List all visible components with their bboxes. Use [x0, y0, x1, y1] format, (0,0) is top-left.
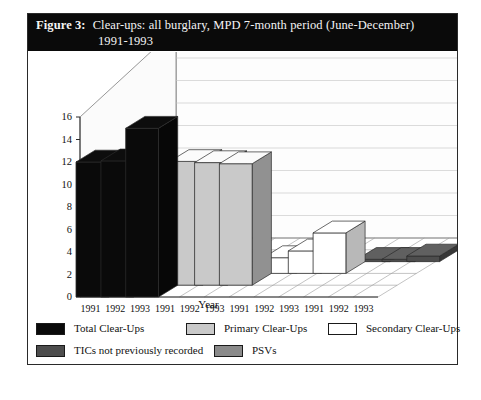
legend-item-label: TICs not previously recorded: [74, 344, 203, 357]
figure-label: Figure 3:: [36, 18, 86, 32]
y-axis-tick-label: 4: [54, 247, 72, 257]
y-axis-tick-label: 10: [54, 180, 72, 190]
legend-item-label: Total Clear-Ups: [74, 322, 144, 335]
y-axis-tick-label: 14: [54, 135, 72, 145]
legend-color-swatch: [214, 345, 243, 357]
figure-title-band: Figure 3:Clear-ups: all burglary, MPD 7-…: [28, 14, 457, 51]
legend-color-swatch: [186, 323, 215, 335]
legend-color-swatch: [36, 345, 65, 357]
figure-title-line-2: 1991-1993: [36, 34, 457, 50]
figure-title-text: Clear-ups: all burglary, MPD 7-month per…: [86, 18, 415, 32]
legend-item-label: Secondary Clear-Ups: [366, 322, 460, 335]
chart-x-axis-title: Year: [0, 298, 423, 310]
y-axis-tick-label: 2: [54, 270, 72, 280]
bar-chart-3d-canvas: [28, 52, 457, 314]
legend-item-label: Primary Clear-Ups: [224, 322, 307, 335]
legend-item-label: PSVs: [252, 344, 276, 357]
figure-title-line-1: Figure 3:Clear-ups: all burglary, MPD 7-…: [36, 18, 457, 34]
figure-container: Figure 3:Clear-ups: all burglary, MPD 7-…: [0, 0, 481, 400]
legend-color-swatch: [328, 323, 357, 335]
chart-area: Number of Clear-Ups (Thousands) 02468101…: [28, 52, 457, 314]
y-axis-tick-label: 12: [54, 157, 72, 167]
y-axis-tick-label: 8: [54, 202, 72, 212]
legend-color-swatch: [36, 323, 65, 335]
y-axis-tick-label: 6: [54, 225, 72, 235]
chart-legend: Total Clear-UpsPrimary Clear-UpsSecondar…: [28, 322, 457, 364]
y-axis-tick-label: 16: [54, 112, 72, 122]
